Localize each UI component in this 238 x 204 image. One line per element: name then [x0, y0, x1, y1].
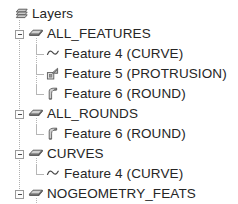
tree-group-row[interactable]: CURVES	[0, 144, 238, 164]
page-title: Layers	[32, 4, 73, 24]
layer-icon	[28, 104, 44, 124]
tree-elbow-connector	[36, 44, 44, 55]
curve-icon	[46, 164, 62, 184]
group-label: ALL_FEATURES	[47, 24, 151, 44]
tree-elbow-connector	[36, 84, 44, 95]
tree-leaf-row[interactable]: Feature 4 (CURVE)	[0, 44, 238, 64]
feature-label: Feature 6 (ROUND)	[64, 124, 186, 144]
feature-label: Feature 4 (CURVE)	[64, 44, 183, 64]
feature-label: Feature 4 (CURVE)	[64, 164, 183, 184]
layers-stack-icon	[14, 4, 30, 24]
tree-leaf-row[interactable]: Feature 4 (CURVE)	[0, 164, 238, 184]
feature-label: Feature 6 (ROUND)	[64, 84, 186, 104]
tree-elbow-connector	[36, 124, 44, 135]
expander-minus-icon[interactable]	[15, 30, 24, 39]
group-label: CURVES	[47, 144, 104, 164]
tree-elbow-connector	[36, 64, 44, 75]
tree-root-layers[interactable]: Layers	[0, 4, 238, 24]
group-label: ALL_ROUNDS	[47, 104, 138, 124]
layer-icon	[28, 184, 44, 204]
layer-icon	[28, 144, 44, 164]
tree-leaf-row[interactable]: Feature 6 (ROUND)	[0, 124, 238, 144]
tree-group-row[interactable]: ALL_FEATURES	[0, 24, 238, 44]
curve-icon	[46, 44, 62, 64]
tree-group-row[interactable]: NOGEOMETRY_FEATS	[0, 184, 238, 204]
layer-icon	[28, 24, 44, 44]
layers-tree-view[interactable]: Layers ALL_FEATURES Feature 4 (CURVE) Fe…	[0, 0, 238, 204]
round-icon	[46, 124, 62, 144]
tree-elbow-connector	[36, 164, 44, 175]
expander-minus-icon[interactable]	[15, 110, 24, 119]
tree-leaf-row[interactable]: Feature 6 (ROUND)	[0, 84, 238, 104]
round-icon	[46, 84, 62, 104]
group-label: NOGEOMETRY_FEATS	[47, 184, 196, 204]
protrusion-icon	[46, 64, 62, 84]
expander-minus-icon[interactable]	[15, 150, 24, 159]
expander-minus-icon[interactable]	[15, 190, 24, 199]
tree-group-row[interactable]: ALL_ROUNDS	[0, 104, 238, 124]
tree-leaf-row[interactable]: Feature 5 (PROTRUSION)	[0, 64, 238, 84]
feature-label: Feature 5 (PROTRUSION)	[64, 64, 227, 84]
